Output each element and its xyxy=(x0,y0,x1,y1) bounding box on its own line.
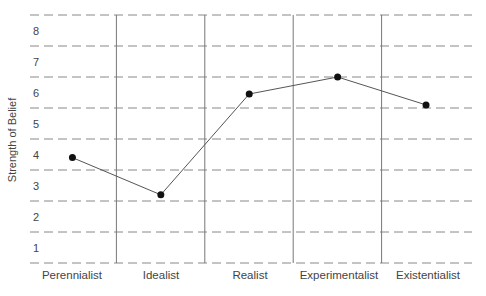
data-point-marker xyxy=(69,154,76,161)
data-point-marker xyxy=(246,91,253,98)
y-tick-label: 2 xyxy=(33,211,39,223)
horizontal-gridlines xyxy=(30,15,472,263)
plot-area xyxy=(0,0,486,296)
data-point-marker xyxy=(157,191,164,198)
x-category-label: Realist xyxy=(232,269,267,281)
y-tick-label: 3 xyxy=(33,180,39,192)
y-tick-label: 1 xyxy=(33,242,39,254)
y-tick-label: 6 xyxy=(33,87,39,99)
y-tick-label: 7 xyxy=(33,56,39,68)
y-tick-label: 8 xyxy=(33,25,39,37)
data-point-marker xyxy=(334,74,341,81)
x-category-label: Existentialist xyxy=(396,269,460,281)
y-tick-label: 4 xyxy=(33,149,39,161)
x-category-label: Perennialist xyxy=(42,269,102,281)
data-markers xyxy=(69,74,430,199)
line-chart: Strength of Belief 8 7 6 5 4 3 2 1 Peren… xyxy=(0,0,486,296)
y-tick-label: 5 xyxy=(33,118,39,130)
data-point-marker xyxy=(423,101,430,108)
x-category-label: Idealist xyxy=(143,269,179,281)
y-axis-label-container: Strength of Belief xyxy=(0,60,24,220)
x-category-label: Experimentalist xyxy=(300,269,379,281)
y-axis-label: Strength of Belief xyxy=(6,98,18,182)
